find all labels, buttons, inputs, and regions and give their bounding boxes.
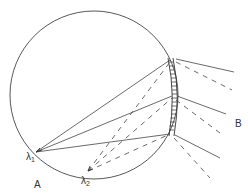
label-point-b: B [235,118,242,129]
incident-rays-solid [175,59,234,158]
rowland-circle-diagram: λ1 λ2 A B [0,0,248,193]
label-lambda2: λ2 [81,175,90,187]
label-point-a: A [34,179,41,190]
diffracted-rays-lambda2 [88,62,172,171]
rowland-circle [10,11,178,179]
incident-rays-dashed [174,62,232,178]
diffracted-rays-lambda1 [36,60,172,152]
